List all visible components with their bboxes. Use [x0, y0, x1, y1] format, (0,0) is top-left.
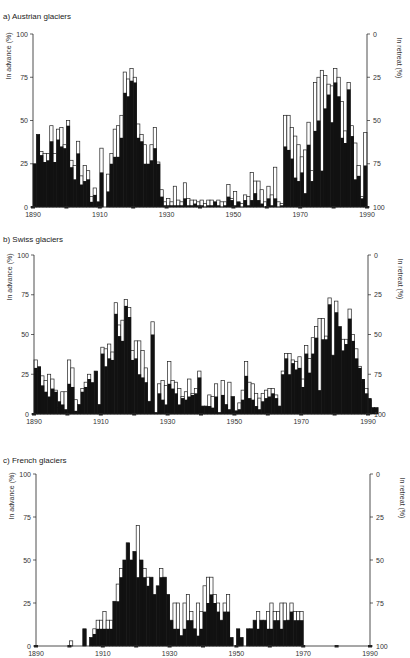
y-tick-label: 25	[23, 600, 31, 607]
bar-advance	[200, 629, 204, 646]
bar-advance	[216, 612, 220, 646]
bar-advance	[156, 586, 160, 646]
y-right-tick-label: 25	[376, 514, 384, 521]
bar-advance	[266, 629, 270, 646]
bar-advance	[126, 543, 130, 646]
bar-advance	[213, 603, 217, 646]
bar-advance	[186, 620, 190, 646]
stationary-bars	[69, 526, 303, 646]
bar-advance	[293, 620, 297, 646]
bar-advance	[130, 560, 134, 646]
right-axis-title: In retreat (%)	[398, 478, 406, 519]
bar-advance	[89, 637, 93, 646]
bar-advance	[116, 601, 120, 646]
x-tick-label: 1990	[362, 650, 378, 657]
bar-advance	[96, 629, 100, 646]
bar-advance	[290, 612, 294, 646]
bar-advance	[250, 629, 254, 646]
bar-advance	[150, 577, 154, 646]
bar-advance	[230, 637, 234, 646]
bar-advance	[283, 620, 287, 646]
bar-advance	[220, 620, 224, 646]
bar-advance	[103, 629, 107, 646]
bar-advance	[173, 629, 177, 646]
y-tick-label: 100	[19, 471, 31, 478]
y-tick-label: 50	[23, 557, 31, 564]
panel-french: c) French glaciers 025507510010075502501…	[0, 0, 410, 658]
y-right-tick-label: 50	[376, 557, 384, 564]
bar-advance	[240, 637, 244, 646]
bar-advance	[146, 586, 150, 646]
bar-advance	[273, 620, 277, 646]
y-right-tick-label: 75	[376, 600, 384, 607]
bar-advance	[83, 629, 87, 646]
bar-advance	[133, 551, 137, 646]
y-tick-label: 75	[23, 514, 31, 521]
bar-advance	[263, 620, 267, 646]
bar-advance	[297, 620, 301, 646]
bar-advance	[93, 634, 97, 646]
bar-advance	[203, 612, 207, 646]
y-right-tick-label: 0	[376, 471, 380, 478]
bar-advance	[170, 620, 174, 646]
bar-advance	[109, 629, 113, 646]
bar-advance	[106, 629, 110, 646]
chart-french: 0255075100100755025018901910193019501970…	[0, 0, 410, 658]
bar-advance	[120, 577, 124, 646]
left-axis-title: In advance (%)	[8, 472, 16, 519]
bar-advance	[180, 636, 184, 646]
x-tick-label: 1950	[229, 650, 245, 657]
bar-advance	[280, 629, 284, 646]
x-tick-label: 1890	[28, 650, 44, 657]
bar-advance	[226, 612, 230, 646]
bar-advance	[210, 594, 214, 646]
x-tick-label: 1930	[162, 650, 178, 657]
bar-advance	[193, 629, 197, 646]
bar-advance	[176, 629, 180, 646]
bar-advance	[163, 577, 167, 646]
y-tick-label: 0	[27, 643, 31, 650]
bar-advance	[223, 612, 227, 646]
bar-advance	[160, 577, 164, 646]
bar-advance	[287, 620, 291, 646]
bar-advance	[236, 629, 240, 646]
bar-advance	[99, 629, 103, 646]
bar-advance	[136, 577, 140, 646]
bar-advance	[206, 603, 210, 646]
bar-advance	[123, 560, 127, 646]
bar-advance	[276, 620, 280, 646]
bar-advance	[113, 601, 117, 646]
bar-advance	[183, 629, 187, 646]
x-tick-label: 1910	[95, 650, 111, 657]
bar-advance	[260, 620, 264, 646]
bar-advance	[256, 629, 260, 646]
bar-advance	[300, 620, 304, 646]
y-right-tick-label: 100	[376, 643, 388, 650]
bar-advance	[246, 629, 250, 646]
bar-advance	[140, 560, 144, 646]
bar-advance	[196, 636, 200, 646]
bar-advance	[190, 620, 194, 646]
bar-advance	[153, 594, 157, 646]
bar-advance	[270, 629, 274, 646]
bar-advance	[166, 594, 170, 646]
x-tick-label: 1970	[295, 650, 311, 657]
bar-advance	[253, 620, 257, 646]
bar-advance	[143, 577, 147, 646]
